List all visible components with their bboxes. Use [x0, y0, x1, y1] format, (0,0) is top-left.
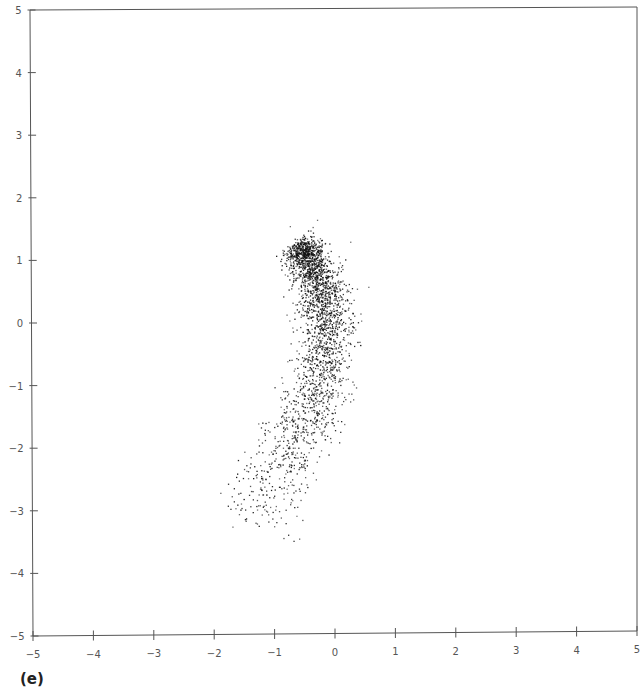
- x-tick-label: 1: [392, 646, 398, 657]
- panel-label: (e): [20, 670, 44, 688]
- x-tick-label: 4: [573, 645, 579, 656]
- x-tick-label: −1: [267, 647, 282, 658]
- y-tick-label: 2: [16, 193, 22, 204]
- x-tick-label: −5: [26, 649, 41, 660]
- y-tick-label: −2: [9, 443, 24, 454]
- x-tick-label: 3: [513, 645, 519, 656]
- y-tick-label: 0: [17, 318, 23, 329]
- top-frame-line: [30, 7, 637, 10]
- y-tick-label: −1: [9, 381, 24, 392]
- scatter-chart: −5−4−3−2−1012345−5−4−3−2−1012345: [0, 0, 640, 695]
- scatter-points: [220, 220, 369, 542]
- y-tick-label: 4: [15, 68, 21, 79]
- y-tick-label: 1: [16, 255, 22, 266]
- axes: [28, 7, 638, 641]
- x-tick-label: −3: [146, 648, 161, 659]
- y-tick-label: −5: [10, 631, 25, 642]
- y-tick-label: −3: [9, 506, 24, 517]
- x-tick-label: −4: [86, 649, 101, 660]
- y-tick-label: 3: [16, 130, 22, 141]
- x-tick-label: 2: [453, 646, 459, 657]
- y-tick-label: 5: [15, 5, 21, 16]
- y-tick-label: −4: [9, 568, 24, 579]
- x-tick-label: −2: [207, 648, 222, 659]
- x-tick-label: 5: [634, 644, 640, 655]
- x-tick-label: 0: [332, 647, 338, 658]
